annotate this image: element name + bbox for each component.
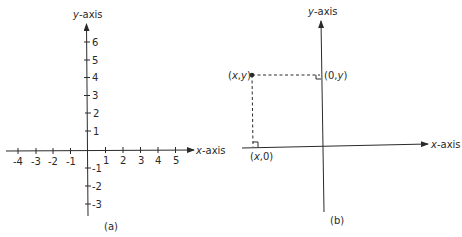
panel-b-x-axis bbox=[242, 144, 428, 148]
right-angle-marker-x bbox=[253, 142, 258, 147]
panel-a: -4 -3 -2 -1 1 2 3 4 5 6 5 4 3 bbox=[6, 9, 226, 232]
y-projection-label: (0,y) bbox=[324, 70, 347, 81]
panel-b-x-axis-label: x-axis bbox=[430, 139, 461, 150]
y-tick-label: -1 bbox=[92, 163, 102, 174]
panel-a-y-axis-label: y-axis bbox=[72, 9, 103, 20]
x-tick-label: -1 bbox=[66, 156, 76, 167]
y-tick-label: 3 bbox=[92, 90, 98, 101]
right-angle-marker-y bbox=[316, 75, 321, 79]
y-tick-label: 1 bbox=[93, 126, 99, 137]
panel-a-x-axis bbox=[6, 150, 194, 151]
x-tick-label: 3 bbox=[138, 155, 144, 166]
panel-b-caption: (b) bbox=[330, 215, 344, 226]
coordinate-diagrams: -4 -3 -2 -1 1 2 3 4 5 6 5 4 3 bbox=[0, 0, 462, 237]
point-xy-label: (x,y) bbox=[228, 70, 251, 81]
panel-a-caption: (a) bbox=[104, 221, 118, 232]
x-tick-label: 1 bbox=[103, 155, 109, 166]
x-tick-label: -2 bbox=[48, 156, 58, 167]
x-tick-label: -4 bbox=[13, 156, 23, 167]
panel-a-y-axis bbox=[87, 24, 89, 216]
y-tick-label: 6 bbox=[92, 37, 98, 48]
y-tick-label: 2 bbox=[93, 108, 99, 119]
panel-a-y-tick-labels: 6 5 4 3 2 1 -1 -2 -3 bbox=[92, 37, 102, 210]
x-tick-label: 2 bbox=[120, 155, 126, 166]
x-tick-label: -3 bbox=[31, 156, 41, 167]
vertical-projection-line bbox=[252, 75, 253, 147]
x-tick-label: 5 bbox=[173, 155, 179, 166]
y-tick-label: -2 bbox=[92, 181, 102, 192]
panel-b-y-axis-label: y-axis bbox=[307, 6, 338, 17]
panel-b-y-axis bbox=[321, 21, 324, 212]
panel-a-x-axis-label: x-axis bbox=[195, 145, 226, 156]
y-tick-label: -3 bbox=[92, 199, 102, 210]
panel-b: (x,y) (0,y) (x,0) y-axis x-axis (b) bbox=[228, 6, 461, 226]
x-tick-label: 4 bbox=[155, 155, 161, 166]
x-projection-label: (x,0) bbox=[250, 151, 273, 162]
y-tick-label: 4 bbox=[92, 72, 98, 83]
y-tick-label: 5 bbox=[92, 55, 98, 66]
